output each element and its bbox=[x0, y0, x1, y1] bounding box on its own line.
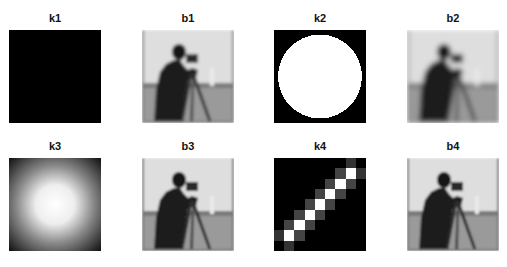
subplot-title: k3 bbox=[9, 140, 101, 152]
subplot-title: b3 bbox=[142, 140, 234, 152]
blurred-cameraman-image bbox=[142, 30, 234, 123]
blurred-cameraman-image bbox=[142, 158, 234, 251]
kernel-uniform-image bbox=[9, 30, 101, 123]
subplot-title: k4 bbox=[274, 140, 366, 152]
kernel-disk-image bbox=[274, 30, 366, 123]
kernel-motion-image bbox=[274, 158, 366, 251]
blurred-cameraman-image bbox=[407, 30, 499, 123]
subplot-title: b2 bbox=[407, 12, 499, 24]
subplot-title: b1 bbox=[142, 12, 234, 24]
subplot-title: k1 bbox=[9, 12, 101, 24]
blurred-cameraman-image bbox=[407, 158, 499, 251]
subplot-title: b4 bbox=[407, 140, 499, 152]
subplot-title: k2 bbox=[274, 12, 366, 24]
kernel-gaussian-image bbox=[9, 158, 101, 251]
